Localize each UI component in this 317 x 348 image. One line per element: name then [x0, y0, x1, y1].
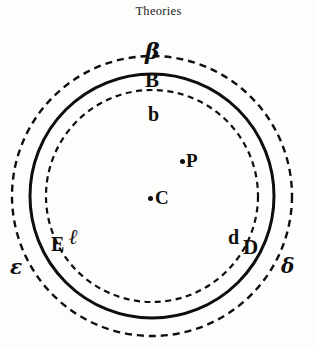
- theories-figure: Theories β B b P C ε E ℓ d D δ: [0, 0, 317, 348]
- label-epsilon: ε: [10, 257, 22, 277]
- label-d-lower: d: [228, 227, 239, 247]
- label-beta: β: [145, 40, 160, 62]
- point-P-marker: [180, 159, 185, 164]
- label-D-upper: D: [243, 237, 258, 258]
- point-P-label: P: [186, 151, 198, 170]
- point-C-label: C: [155, 188, 169, 207]
- label-E-upper: E: [51, 234, 64, 254]
- label-b-lower: b: [148, 104, 159, 124]
- point-C-marker: [148, 196, 153, 201]
- label-delta: δ: [281, 256, 294, 276]
- label-B-upper: B: [145, 70, 159, 91]
- label-ell: ℓ: [69, 226, 78, 247]
